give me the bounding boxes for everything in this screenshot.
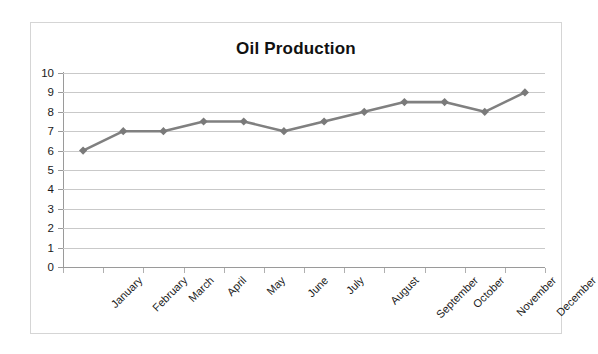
x-axis-label-july: July [344,274,366,296]
data-point-marker-april [199,117,207,125]
series-line [83,92,525,150]
x-axis-label-february: February [150,274,190,314]
x-axis-label-august: August [388,274,421,307]
data-point-marker-march [159,127,167,135]
x-axis-label-december: December [554,274,598,318]
data-point-marker-december [521,88,529,96]
data-point-marker-february [119,127,127,135]
x-axis-label-may: May [264,274,287,297]
data-point-marker-january [79,147,87,155]
data-point-marker-september [400,98,408,106]
x-axis-label-january: January [109,274,145,310]
x-axis-label-june: June [305,274,330,299]
oil-production-line-series [63,73,545,267]
data-point-marker-may [240,117,248,125]
data-point-marker-august [360,108,368,116]
data-point-marker-october [440,98,448,106]
data-point-marker-june [280,127,288,135]
data-point-marker-july [320,117,328,125]
x-axis-label-november: November [514,274,558,318]
x-axis-label-march: March [186,274,216,304]
plot-area [63,73,545,267]
data-point-marker-november [481,108,489,116]
x-axis-label-april: April [224,274,248,298]
